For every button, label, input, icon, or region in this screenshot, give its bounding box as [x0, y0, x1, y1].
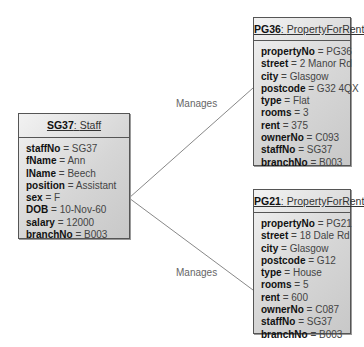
attribute-row: ownerNo = C087 — [261, 304, 350, 316]
attr-value: B003 — [84, 229, 107, 240]
attr-value: SG37 — [72, 143, 98, 154]
equals: = — [308, 157, 319, 168]
attr-name: staffNo — [261, 316, 295, 327]
attribute-row: postcode = G12 — [261, 255, 350, 267]
attr-value: 5 — [303, 279, 309, 290]
property-pg21-object-box: PG21: PropertyForRent propertyNo = PG21 … — [253, 189, 351, 334]
attr-value: B003 — [319, 329, 342, 340]
attribute-row: salary = 12000 — [26, 217, 129, 229]
staff-attributes: staffNo = SG37 fName = Ann lName = Beech… — [19, 138, 129, 241]
attr-name: rent — [261, 120, 280, 131]
attribute-row: city = Glasgow — [261, 71, 350, 83]
attr-name: staffNo — [261, 144, 295, 155]
property-object-id: PG36 — [254, 23, 281, 35]
attribute-row: postcode = G32 4QX — [261, 83, 350, 95]
equals: = — [56, 168, 67, 179]
attr-value: Glasgow — [290, 71, 329, 82]
equals: = — [315, 46, 326, 57]
attribute-row: staffNo = SG37 — [26, 143, 129, 155]
attr-name: street — [261, 58, 288, 69]
equals: = — [292, 107, 303, 118]
equals: = — [73, 229, 84, 240]
attr-name: DOB — [26, 204, 48, 215]
attribute-row: street = 18 Dale Rd — [261, 230, 350, 242]
equals: = — [48, 204, 59, 215]
attribute-row: position = Assistant — [26, 180, 129, 192]
property-object-class: PropertyForRent — [287, 23, 364, 35]
equals: = — [282, 267, 293, 278]
staff-object-header: SG37: Staff — [19, 114, 129, 138]
equals: = — [308, 329, 319, 340]
attribute-row: city = Glasgow — [261, 243, 350, 255]
equals: = — [280, 120, 291, 131]
property-object-id: PG21 — [254, 195, 281, 207]
attribute-row: ownerNo = C093 — [261, 132, 350, 144]
staff-object-box: SG37: Staff staffNo = SG37 fName = Ann l… — [18, 113, 130, 239]
attr-value: F — [54, 192, 60, 203]
equals: = — [304, 304, 315, 315]
attr-value: G32 4QX — [317, 83, 359, 94]
attr-name: salary — [26, 217, 55, 228]
property-pg21-header: PG21: PropertyForRent — [254, 190, 350, 213]
attribute-row: branchNo = B003 — [26, 229, 129, 241]
attribute-row: rent = 375 — [261, 120, 350, 132]
property-pg36-attributes: propertyNo = PG36 street = 2 Manor Rd ci… — [254, 41, 350, 169]
attr-value: 10-Nov-60 — [60, 204, 107, 215]
equals: = — [288, 230, 299, 241]
attr-value: PG21 — [326, 218, 352, 229]
attribute-row: fName = Ann — [26, 155, 129, 167]
equals: = — [43, 192, 54, 203]
attr-value: SG37 — [307, 144, 333, 155]
attr-name: sex — [26, 192, 43, 203]
attr-name: propertyNo — [261, 218, 315, 229]
attr-name: rent — [261, 292, 280, 303]
staff-object-id: SG37 — [47, 119, 74, 131]
attr-value: B003 — [319, 157, 342, 168]
attr-name: branchNo — [26, 229, 73, 240]
attr-value: 3 — [303, 107, 309, 118]
equals: = — [304, 132, 315, 143]
attribute-row: lName = Beech — [26, 168, 129, 180]
equals: = — [295, 316, 306, 327]
attr-value: Ann — [67, 155, 85, 166]
attr-name: postcode — [261, 83, 305, 94]
attr-value: 12000 — [66, 217, 94, 228]
attr-name: city — [261, 243, 278, 254]
attr-value: Flat — [293, 95, 310, 106]
attr-value: SG37 — [307, 316, 333, 327]
attribute-row: type = Flat — [261, 95, 350, 107]
attribute-row: staffNo = SG37 — [261, 144, 350, 156]
staff-object-class: Staff — [80, 119, 101, 131]
attr-name: staffNo — [26, 143, 60, 154]
property-pg36-object-box: PG36: PropertyForRent propertyNo = PG36 … — [253, 17, 351, 166]
equals: = — [55, 217, 66, 228]
attribute-row: type = House — [261, 267, 350, 279]
attr-value: C093 — [315, 132, 339, 143]
equals: = — [278, 71, 289, 82]
attr-value: 375 — [291, 120, 308, 131]
equals: = — [280, 292, 291, 303]
attr-name: type — [261, 95, 282, 106]
attr-name: type — [261, 267, 282, 278]
attribute-row: rooms = 3 — [261, 107, 350, 119]
attribute-row: rooms = 5 — [261, 279, 350, 291]
attr-name: lName — [26, 168, 56, 179]
equals: = — [57, 155, 68, 166]
link-label-manages-pg21: Manages — [176, 267, 217, 278]
attr-value: G12 — [317, 255, 336, 266]
attr-value: Glasgow — [290, 243, 329, 254]
attr-value: House — [293, 267, 322, 278]
attr-value: 600 — [291, 292, 308, 303]
equals: = — [65, 180, 76, 191]
attr-name: fName — [26, 155, 57, 166]
attribute-row: propertyNo = PG36 — [261, 46, 350, 58]
attribute-row: propertyNo = PG21 — [261, 218, 350, 230]
link-label-manages-pg36: Manages — [176, 98, 217, 109]
attr-value: Beech — [67, 168, 95, 179]
attr-value: C087 — [315, 304, 339, 315]
equals: = — [295, 144, 306, 155]
attr-name: rooms — [261, 107, 292, 118]
attribute-row: sex = F — [26, 192, 129, 204]
attr-name: ownerNo — [261, 304, 304, 315]
equals: = — [305, 255, 316, 266]
